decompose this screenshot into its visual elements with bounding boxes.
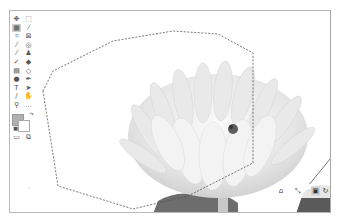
eyedropper-tool-icon[interactable]: ⁄ <box>12 41 21 49</box>
canvas-nav-panel: ⌂ ⤡ · ▣↻◩▪ <box>275 184 331 198</box>
zoom-tool-icon[interactable]: ⚲ <box>12 101 21 109</box>
transform-icon[interactable]: ⤡ <box>291 186 305 196</box>
frame-tool-icon[interactable]: ⊠ <box>24 32 33 40</box>
brush-tool-icon[interactable]: ⁄ <box>12 49 21 57</box>
editor-frame: ✥⬚▦⁄⌗⊠⁄◎⁄♟✓◆▤◇●✒T➤∕✋⚲…▭⧉ ↷ ■ <box>9 10 331 213</box>
eraser-tool-icon[interactable]: ◆ <box>24 58 33 66</box>
type-tool-icon[interactable]: T <box>12 84 21 92</box>
object-select-tool-icon[interactable]: ▦ <box>12 24 21 32</box>
select-mode-lasso-icon[interactable]: ↻ <box>321 186 330 196</box>
screen-mode-button[interactable]: ⧉ <box>24 133 33 141</box>
blur-tool-icon[interactable]: ◇ <box>24 67 33 75</box>
canvas-marker: ⁘ <box>27 186 30 191</box>
document-canvas[interactable]: ⌂ ⤡ · ▣↻◩▪ <box>38 11 330 212</box>
rect-marquee-tool-icon[interactable]: ⬚ <box>24 15 33 23</box>
hand-tool-icon[interactable]: ✋ <box>24 92 33 100</box>
path-select-tool-icon[interactable]: ➤ <box>24 84 33 92</box>
stamp-tool-icon[interactable]: ♟ <box>24 49 33 57</box>
dodge-tool-icon[interactable]: ● <box>12 75 21 83</box>
spot-heal-tool-icon[interactable]: ◎ <box>24 41 33 49</box>
pen-tool-icon[interactable]: ✒ <box>24 75 33 83</box>
select-mode-rect-icon[interactable]: ▣ <box>311 186 320 196</box>
default-colors-icon[interactable]: ■ <box>11 124 20 132</box>
magic-wand-tool-icon[interactable]: ⁄ <box>24 24 33 32</box>
gradient-tool-icon[interactable]: ▤ <box>12 67 21 75</box>
move-tool-icon[interactable]: ✥ <box>12 15 21 23</box>
canvas-image <box>38 11 331 213</box>
more-tools-icon[interactable]: … <box>24 101 33 109</box>
line-tool-icon[interactable]: ∕ <box>12 92 21 100</box>
swap-colors-icon[interactable]: ↷ <box>27 110 36 118</box>
history-brush-tool-icon[interactable]: ✓ <box>12 58 21 66</box>
home-icon[interactable]: ⌂ <box>275 186 287 196</box>
crop-tool-icon[interactable]: ⌗ <box>12 32 21 40</box>
quick-mask-button[interactable]: ▭ <box>12 133 21 141</box>
